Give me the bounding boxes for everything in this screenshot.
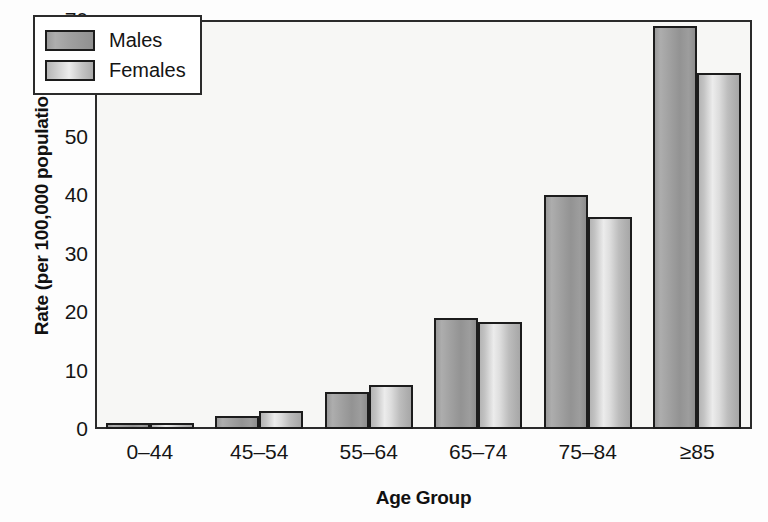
y-axis-tick-label: 20	[42, 300, 88, 324]
bar-females-2	[369, 385, 413, 429]
bar-group	[653, 20, 741, 429]
chart-legend: MalesFemales	[33, 15, 202, 95]
bar-group	[434, 20, 522, 429]
x-axis-tick-labels: 0–4445–5455–6465–7475–84≥85	[95, 440, 752, 474]
y-axis-tick-label: 10	[42, 359, 88, 383]
legend-swatch-females-icon	[45, 60, 95, 81]
bar-females-3	[478, 322, 522, 430]
x-axis-tick-label: ≥85	[680, 440, 715, 464]
bar-females-1	[259, 411, 303, 429]
x-axis-tick-label: 0–44	[126, 440, 173, 464]
y-axis-tick-label: 50	[42, 125, 88, 149]
bar-males-0	[106, 423, 150, 429]
y-axis-tick-label: 40	[42, 183, 88, 207]
bar-males-4	[544, 195, 588, 429]
bar-males-3	[434, 318, 478, 429]
bar-chart-figure: Rate (per 100,000 population) 0102030405…	[0, 0, 768, 522]
x-axis-tick-label: 75–84	[559, 440, 617, 464]
x-axis-tick-label: 45–54	[230, 440, 288, 464]
legend-row: Females	[45, 55, 186, 85]
x-axis-title: Age Group	[95, 487, 752, 509]
bar-females-0	[150, 423, 194, 429]
bar-males-5	[653, 26, 697, 429]
bar-males-1	[215, 416, 259, 429]
bar-group	[325, 20, 413, 429]
bar-females-4	[588, 217, 632, 429]
legend-label: Females	[109, 59, 186, 82]
bar-group	[215, 20, 303, 429]
bar-males-2	[325, 392, 369, 429]
y-axis-tick-label: 30	[42, 242, 88, 266]
legend-row: Males	[45, 25, 186, 55]
x-axis-tick-label: 55–64	[340, 440, 398, 464]
bar-females-5	[697, 73, 741, 429]
y-axis-tick-label: 0	[42, 417, 88, 441]
x-axis-tick-label: 65–74	[449, 440, 507, 464]
legend-label: Males	[109, 29, 162, 52]
bar-group	[544, 20, 632, 429]
legend-swatch-males-icon	[45, 30, 95, 51]
